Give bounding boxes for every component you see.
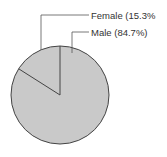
female-label: Female (15.3% (91, 10, 156, 21)
male-label: Male (84.7%) (91, 27, 148, 38)
pie (11, 46, 109, 144)
female-leader-line (41, 15, 89, 50)
pie-chart: Female (15.3% Male (84.7%) (0, 0, 167, 157)
